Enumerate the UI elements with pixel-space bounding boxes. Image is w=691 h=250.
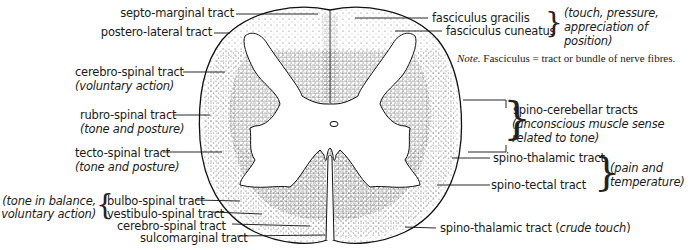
note-body: Fasciculus = tract or bundle of nerve fi…	[483, 52, 675, 64]
label-spino-cerebellar-function-1: (unconscious muscle sense	[512, 117, 664, 131]
function-text: tone and posture	[84, 122, 180, 136]
label-sulcomarginal-tract: sulcomarginal tract	[140, 231, 248, 245]
note-prefix: Note.	[457, 52, 481, 64]
label-spino-thalamic-tract-lateral: spino-thalamic tract	[493, 151, 605, 165]
label-spino-cerebellar-tracts: spino-cerebellar tracts	[513, 103, 638, 117]
label-rubro-spinal-function: (tone and posture)	[80, 122, 184, 136]
function-text: tone and posture	[79, 160, 175, 174]
note-text: Note. Fasciculus = tract or bundle of ne…	[457, 52, 675, 64]
label-bulbo-spinal-tract: bulbo-spinal tract	[107, 194, 205, 208]
function-text: crude touch	[560, 221, 627, 235]
central-canal	[330, 121, 338, 126]
label-posterior-group-function-3: position)	[564, 34, 612, 48]
label-spino-cerebellar-function-2: related to tone)	[512, 131, 599, 145]
label-posterior-group-function-2: appreciation of	[564, 20, 648, 34]
label-fasciculus-cuneatus: fasciculus cuneatus	[446, 24, 555, 38]
tract-name: spino-thalamic tract	[440, 221, 552, 235]
label-left-group-function-1: (tone in balance,	[0, 194, 96, 208]
posterior-group-brace: }	[545, 8, 563, 38]
label-fasciculus-gracilis: fasciculus gracilis	[432, 11, 530, 25]
label-spino-thalamic-tract-anterior: spino-thalamic tract (crude touch)	[440, 221, 630, 235]
label-postero-lateral-tract: postero-lateral tract	[70, 25, 212, 39]
label-cerebro-spinal-function: (voluntary action)	[75, 79, 174, 93]
label-posterior-group-function-1: (touch, pressure,	[564, 6, 659, 20]
label-spino-tectal-tract: spino-tectal tract	[491, 178, 586, 192]
function-text: voluntary action	[79, 79, 170, 93]
label-left-group-function-2: voluntary action)	[0, 207, 96, 221]
paren-close: )	[626, 221, 630, 235]
label-septo-marginal-tract: septo-marginal tract	[100, 6, 234, 20]
label-tecto-spinal-tract: tecto-spinal tract	[75, 146, 170, 160]
label-pain-group-function-1: (pain and	[610, 161, 663, 175]
label-pain-group-function-2: temperature)	[610, 175, 685, 189]
label-tecto-spinal-function: (tone and posture)	[75, 160, 179, 174]
label-cerebro-spinal-tract-lateral: cerebro-spinal tract	[75, 65, 184, 79]
label-rubro-spinal-tract: rubro-spinal tract	[80, 108, 176, 122]
